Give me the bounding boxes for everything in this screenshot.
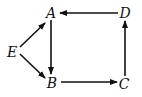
edge-e-to-b xyxy=(20,54,45,78)
node-a: A xyxy=(44,5,56,21)
node-c: C xyxy=(119,76,130,92)
node-b: B xyxy=(46,75,57,91)
edge-e-to-a xyxy=(20,23,45,47)
graph-diagram: A B C D E xyxy=(0,0,142,97)
node-e: E xyxy=(6,44,17,60)
node-d: D xyxy=(118,5,130,21)
